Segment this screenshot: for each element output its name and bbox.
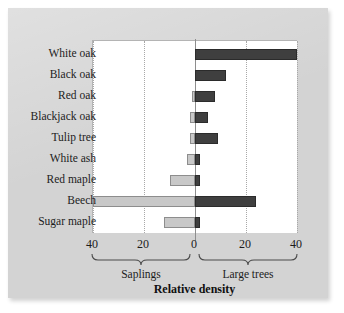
large-tree-bar-black-oak — [195, 70, 226, 81]
y-label-blackjack-oak: Blackjack oak — [0, 111, 96, 122]
group-label-large-trees: Large trees — [193, 268, 303, 280]
large-tree-bar-white-oak — [195, 49, 297, 60]
plot-area — [92, 40, 297, 233]
y-label-red-oak: Red oak — [0, 90, 96, 101]
y-label-black-oak: Black oak — [0, 69, 96, 80]
x-tick-plus40: 40 — [281, 238, 311, 250]
large-tree-bar-sugar-maple — [195, 217, 200, 228]
x-tick-minus20: 20 — [128, 238, 158, 250]
group-label-saplings: Saplings — [86, 268, 196, 280]
y-label-sugar-maple: Sugar maple — [0, 216, 96, 227]
gridline-plus40 — [297, 41, 298, 233]
y-label-red-maple: Red maple — [0, 174, 96, 185]
large-tree-bar-blackjack-oak — [195, 112, 208, 123]
x-tick-zero: 0 — [179, 238, 209, 250]
sapling-bar-sugar-maple — [164, 217, 195, 228]
large-tree-bar-red-maple — [195, 175, 200, 186]
large-tree-bar-tulip-tree — [195, 133, 218, 144]
sapling-bar-red-maple — [170, 175, 196, 186]
sapling-bar-white-ash — [187, 154, 195, 165]
y-label-white-oak: White oak — [0, 48, 96, 59]
x-tick-minus40: 40 — [77, 238, 107, 250]
y-label-beech: Beech — [0, 195, 96, 206]
large-tree-bar-red-oak — [195, 91, 215, 102]
large-tree-bar-white-ash — [195, 154, 200, 165]
y-label-white-ash: White ash — [0, 153, 96, 164]
y-label-tulip-tree: Tulip tree — [0, 132, 96, 143]
large-tree-bar-beech — [195, 196, 256, 207]
x-axis-title: Relative density — [72, 283, 317, 295]
figure-canvas: White oak Black oak Red oak Blackjack oa… — [0, 0, 344, 313]
x-tick-plus20: 20 — [230, 238, 260, 250]
sapling-bar-beech — [93, 196, 195, 207]
